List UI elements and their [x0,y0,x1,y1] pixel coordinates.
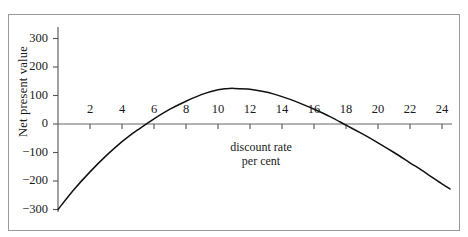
x-tick-label: 16 [302,103,326,116]
x-axis-title-line2: per cent [206,154,316,168]
x-axis-title-line1: discount rate [206,140,316,154]
y-tick-label: 0 [0,117,48,130]
y-tick-label: −300 [0,203,48,216]
x-tick-label: 4 [110,103,134,116]
x-tick-label: 24 [430,103,454,116]
figure-page: Net present value 3002001000−100−200−300… [0,0,468,237]
y-tick-label: −200 [0,174,48,187]
x-tick-label: 14 [270,103,294,116]
x-tick-label: 2 [78,103,102,116]
x-tick-label: 10 [206,103,230,116]
x-tick-label: 6 [142,103,166,116]
x-tick-label: 20 [366,103,390,116]
npv-chart-plot [0,0,468,237]
x-tick-label: 18 [334,103,358,116]
y-tick-label: −100 [0,146,48,159]
y-tick-label: 300 [0,32,48,45]
x-tick-label: 12 [238,103,262,116]
chart-axes [53,27,452,212]
y-tick-label: 200 [0,60,48,73]
x-tick-label: 22 [398,103,422,116]
x-tick-label: 8 [174,103,198,116]
y-tick-label: 100 [0,89,48,102]
